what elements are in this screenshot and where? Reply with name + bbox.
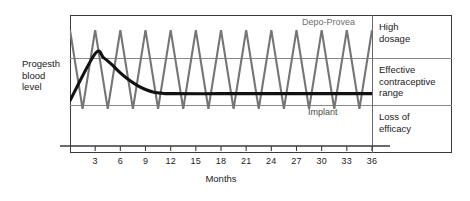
x-axis-tick-label-9: 9	[143, 156, 148, 166]
series-label-depo-provera: Depo-Provea	[302, 17, 355, 27]
x-axis-tick-label-27: 27	[291, 156, 301, 166]
x-axis-tick-label-33: 33	[342, 156, 352, 166]
legend-cell-high-dosage-line-1: High	[379, 21, 451, 33]
y-axis-label-line-1: Progesth	[22, 58, 74, 70]
legend-cell-loss-of-efficacy-line-1: Loss of	[379, 111, 451, 123]
y-axis-label-text-2: blood	[22, 70, 45, 81]
legend-cell-loss-of-efficacy-line-2: efficacy	[379, 123, 451, 135]
x-axis-tick-label-21: 21	[241, 156, 251, 166]
legend-cell-effective-range-line-1: Effective	[379, 64, 451, 76]
x-axis-tick-label-18: 18	[216, 156, 226, 166]
y-axis-label-line-3: level	[22, 81, 74, 93]
series-label-implant: Implant	[308, 107, 338, 117]
legend-cell-effective-range-line-2: contraceptive	[379, 76, 451, 88]
legend-cell-effective-range: Effective contraceptive range	[379, 64, 451, 99]
legend-cell-effective-range-line-3: range	[379, 87, 451, 99]
plot-area	[70, 15, 372, 153]
x-axis-tick-label-12: 12	[165, 156, 175, 166]
y-axis-label-text-1: Progesth	[22, 58, 60, 69]
y-axis-label-line-2: blood	[22, 70, 74, 82]
legend-column-divider	[372, 15, 373, 153]
x-axis-tick-marks	[95, 146, 372, 151]
legend-cell-loss-of-efficacy: Loss of efficacy	[379, 111, 451, 134]
x-axis-tick-label-24: 24	[266, 156, 276, 166]
x-axis-tick-label-36: 36	[367, 156, 377, 166]
x-axis-tick-label-3: 3	[93, 156, 98, 166]
y-axis-label-text-3: level	[22, 81, 42, 92]
legend-cell-high-dosage: High dosage	[379, 21, 451, 44]
x-axis-title: Months	[70, 173, 372, 184]
y-axis-label: Progesth blood level	[22, 58, 74, 93]
x-axis-tick-label-30: 30	[316, 156, 326, 166]
x-axis-tick-label-6: 6	[118, 156, 123, 166]
legend-cell-high-dosage-line-2: dosage	[379, 33, 451, 45]
x-axis-tick-labels: 369121518212427303336	[70, 156, 372, 170]
x-axis-tick-label-15: 15	[191, 156, 201, 166]
chart-figure: Progesth blood level Depo-Provea Implant…	[0, 0, 470, 201]
